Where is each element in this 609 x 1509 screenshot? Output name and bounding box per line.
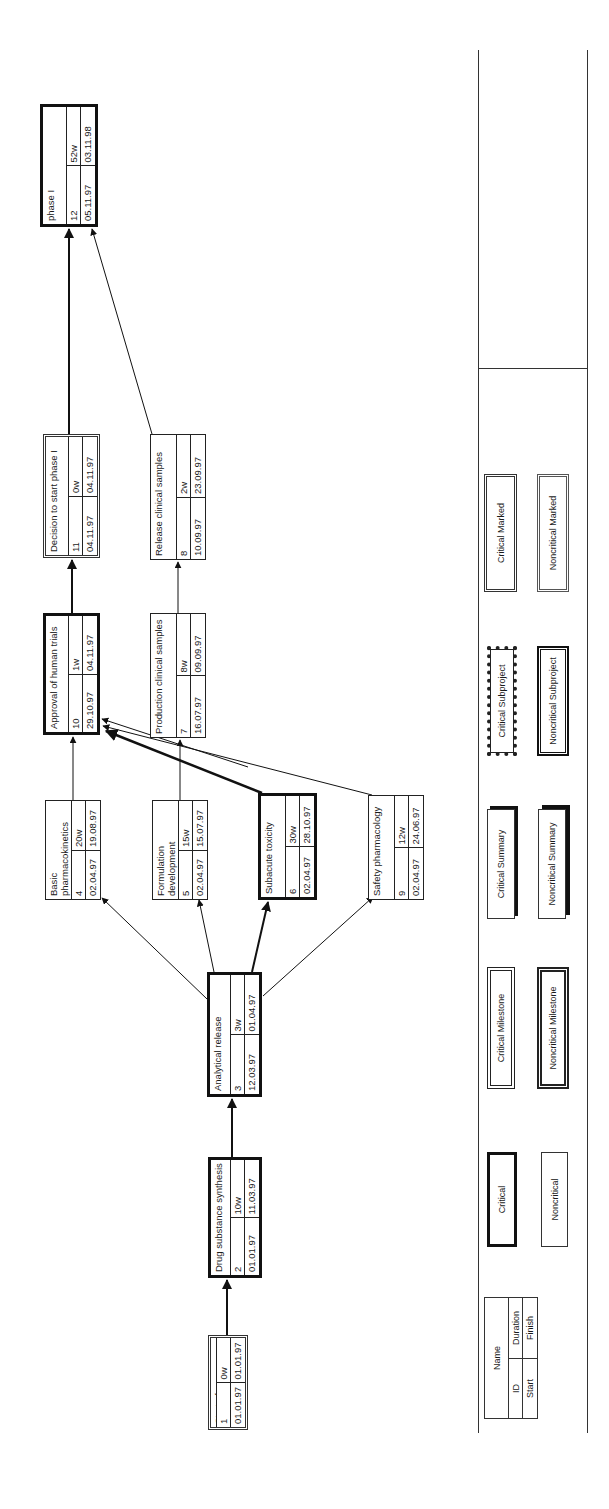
task-duration: 0w — [217, 1338, 231, 1383]
task-finish: 04.11.97 — [83, 616, 97, 674]
task-name: Subacute toxicity — [261, 796, 286, 897]
task-node-analytical-release[interactable]: Analytical release 3 3w 12.03.97 01.04.9… — [207, 972, 262, 1097]
task-start: 01.01.97 — [245, 1218, 259, 1276]
task-node-subacute-toxicity[interactable]: Subacute toxicity 6 30w 02.04.97 28.10.9… — [258, 793, 317, 900]
task-start: 02.04.97 — [193, 850, 207, 899]
task-start: 02.04.97 — [409, 848, 423, 900]
task-finish: 03.11.98 — [81, 107, 95, 166]
task-finish: 28.10.97 — [300, 796, 314, 847]
edge-6-10 — [106, 731, 262, 793]
edge-3-4 — [102, 898, 207, 999]
task-duration: 3w — [231, 975, 245, 1035]
task-name: Formulation development — [153, 801, 179, 899]
task-start: 04.11.97 — [83, 496, 97, 555]
legend-field-key: Name ID Duration Start Finish — [484, 1297, 538, 1419]
task-id: 3 — [231, 1035, 245, 1095]
legend-key-duration: Duration — [509, 1298, 523, 1358]
legend-key-finish: Finish — [523, 1298, 537, 1358]
legend-critical-summary: Critical Summary — [487, 809, 515, 919]
edge-3-6 — [252, 902, 268, 972]
task-finish: 11.03.97 — [245, 1160, 259, 1218]
task-id: 5 — [179, 850, 193, 899]
task-duration: 52w — [67, 107, 81, 166]
legend-key-start: Start — [523, 1358, 537, 1418]
task-id: 6 — [286, 847, 300, 898]
task-id: 9 — [395, 848, 409, 900]
network-diagram-canvas: Start of development 1 0w 01.01.97 01.01… — [0, 0, 609, 1509]
legend-key-name: Name — [485, 1298, 509, 1418]
task-id: 1 — [217, 1383, 231, 1428]
task-duration: 2w — [177, 435, 191, 497]
task-finish: 24.06.97 — [409, 796, 423, 848]
legend-noncritical-summary: Noncritical Summary — [538, 809, 566, 919]
edge-3-5 — [199, 900, 214, 972]
task-duration: 30w — [286, 796, 300, 847]
task-start: 29.10.97 — [83, 674, 97, 732]
task-id: 11 — [69, 496, 83, 555]
task-name: Analytical release — [210, 975, 231, 1094]
task-node-formulation-development[interactable]: Formulation development 5 15w 02.04.97 1… — [152, 800, 208, 900]
legend-key-id: ID — [509, 1358, 523, 1418]
edge-9-10 — [103, 726, 372, 795]
task-start: 10.09.97 — [191, 497, 205, 559]
task-node-phase-i[interactable]: phase I 12 52w 05.11.97 03.11.98 — [40, 104, 98, 227]
edge-8-12 — [92, 229, 152, 434]
task-name: Safety pharmacology — [369, 796, 395, 899]
task-finish: 15.07.97 — [193, 801, 207, 850]
task-node-release-clinical-samples[interactable]: Release clinical samples 8 2w 10.09.97 2… — [150, 434, 206, 560]
legend-critical-subproject: Critical Subproject — [487, 646, 517, 756]
task-id: 7 — [177, 676, 191, 738]
edge-3-9 — [263, 897, 373, 996]
task-name: Drug substance synthesis — [211, 1160, 231, 1275]
task-duration: 8w — [177, 614, 191, 676]
task-node-safety-pharmacology[interactable]: Safety pharmacology 9 12w 02.04.97 24.06… — [368, 795, 424, 900]
task-id: 4 — [72, 850, 86, 899]
legend-critical-milestone: Critical Milestone — [487, 967, 515, 1089]
task-finish: 23.09.97 — [191, 435, 205, 497]
task-name: Release clinical samples — [151, 435, 177, 559]
task-id: 12 — [67, 166, 81, 225]
task-name: Production clinical samples — [151, 614, 177, 737]
task-node-approval-of-human-trials[interactable]: Approval of human trials 10 1w 29.10.97 … — [43, 613, 100, 735]
task-duration: 12w — [395, 796, 409, 848]
task-node-basic-pharmacokinetics[interactable]: Basic pharmacokinetics 4 20w 02.04.97 19… — [45, 800, 101, 900]
task-name: Decision to start phase I — [46, 437, 69, 555]
task-node-start-of-development[interactable]: Start of development 1 0w 01.01.97 01.01… — [208, 1335, 248, 1430]
task-finish: 01.04.97 — [245, 975, 259, 1035]
task-duration: 1w — [69, 616, 83, 674]
task-finish: 19.08.97 — [86, 801, 100, 850]
task-name: phase I — [43, 107, 67, 224]
task-start: 16.07.97 — [191, 676, 205, 738]
legend-noncritical-marked: Noncritical Marked — [537, 474, 569, 592]
legend-critical: Critical — [487, 1152, 517, 1247]
task-node-decision-to-start-phase-i[interactable]: Decision to start phase I 11 0w 04.11.97… — [43, 434, 100, 558]
task-node-production-clinical-samples[interactable]: Production clinical samples 7 8w 16.07.9… — [150, 613, 206, 738]
legend-noncritical-subproject: Noncritical Subproject — [537, 646, 569, 756]
task-duration: 0w — [69, 437, 83, 496]
task-duration: 15w — [179, 801, 193, 850]
task-node-drug-substance-synthesis[interactable]: Drug substance synthesis 2 10w 01.01.97 … — [208, 1157, 262, 1278]
task-start: 02.04.97 — [300, 847, 314, 898]
task-id: 10 — [69, 674, 83, 732]
legend-noncritical: Noncritical — [541, 1152, 568, 1247]
task-finish: 01.01.97 — [231, 1338, 245, 1383]
task-start: 05.11.97 — [81, 166, 95, 225]
legend-critical-marked: Critical Marked — [484, 474, 517, 592]
task-duration: 20w — [72, 801, 86, 850]
task-start: 01.01.97 — [231, 1383, 245, 1428]
task-start: 02.04.97 — [86, 850, 100, 899]
task-name: Approval of human trials — [46, 616, 69, 732]
task-id: 2 — [231, 1218, 245, 1276]
legend-noncritical-milestone: Noncritical Milestone — [537, 967, 569, 1089]
task-finish: 04.11.97 — [83, 437, 97, 496]
task-start: 12.03.97 — [245, 1035, 259, 1095]
task-name: Basic pharmacokinetics — [46, 801, 72, 899]
task-duration: 10w — [231, 1160, 245, 1218]
task-finish: 09.09.97 — [191, 614, 205, 676]
task-id: 8 — [177, 497, 191, 559]
